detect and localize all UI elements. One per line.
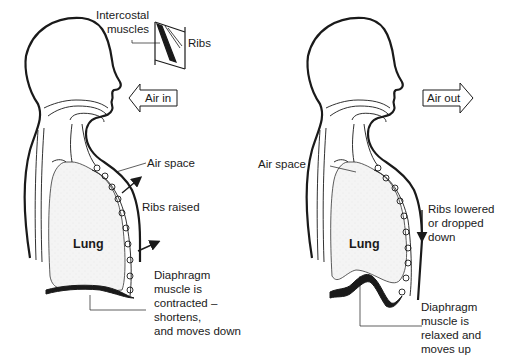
air-space-label-right: Air space (258, 157, 306, 171)
ribs-inset-label: Ribs (188, 36, 211, 50)
intercostal-muscles-label: Intercostal muscles (96, 8, 149, 36)
diaphragm-relaxed-label: Diaphragm muscle is relaxed and moves up (421, 300, 481, 356)
exhale-figure (307, 18, 422, 326)
diaphragm-contracted-label: Diaphragm muscle is contracted – shorten… (154, 268, 241, 338)
ribs-raised-label: Ribs raised (142, 200, 200, 214)
air-out-text: Air out (427, 91, 460, 105)
ribs-lowered-label: Ribs lowered or dropped down (428, 202, 494, 244)
left-lung (49, 162, 125, 290)
air-space-label-left: Air space (147, 156, 195, 170)
lung-label-right: Lung (349, 237, 380, 251)
air-in-label: Air in (145, 91, 171, 105)
lung-label-left: Lung (73, 237, 104, 251)
right-lung (331, 162, 407, 283)
